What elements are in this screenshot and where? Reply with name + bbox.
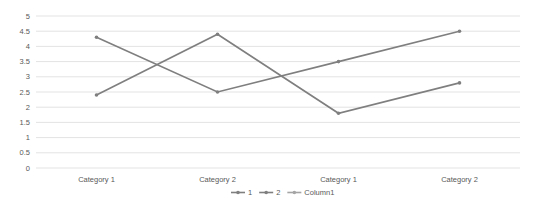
- x-axis: Category 1Category 2Category 1Category 2: [78, 175, 478, 184]
- data-point: [95, 93, 99, 97]
- y-tick-label: 0: [26, 164, 30, 173]
- y-tick-label: 4.5: [20, 27, 30, 36]
- line-chart: 00.511.522.533.544.55 Category 1Category…: [0, 0, 541, 209]
- x-tick-label: Category 2: [441, 175, 478, 184]
- y-tick-label: 3: [26, 72, 30, 81]
- x-tick-label: Category 1: [320, 175, 357, 184]
- legend: 12Column1: [231, 188, 334, 197]
- data-point: [458, 81, 462, 85]
- y-tick-label: 0.5: [20, 148, 30, 157]
- x-tick-label: Category 1: [78, 175, 115, 184]
- data-point: [337, 111, 341, 115]
- legend-label: 2: [276, 188, 280, 197]
- y-tick-label: 2.5: [20, 88, 30, 97]
- data-point: [458, 29, 462, 33]
- y-tick-label: 1: [26, 133, 30, 142]
- y-tick-label: 4: [26, 42, 30, 51]
- legend-label: Column1: [304, 188, 334, 197]
- y-tick-label: 3.5: [20, 57, 30, 66]
- y-tick-label: 2: [26, 103, 30, 112]
- data-point: [95, 35, 99, 39]
- x-tick-label: Category 2: [199, 175, 236, 184]
- y-tick-label: 1.5: [20, 118, 30, 127]
- data-point: [337, 60, 341, 64]
- series-lines: [95, 29, 462, 115]
- legend-item-1: 1: [231, 188, 252, 197]
- legend-item-2: 2: [259, 188, 280, 197]
- gridlines: [36, 16, 520, 168]
- data-point: [216, 90, 220, 94]
- y-axis: 00.511.522.533.544.55: [20, 12, 30, 173]
- y-tick-label: 5: [26, 12, 30, 21]
- legend-marker-icon: [236, 191, 240, 195]
- legend-marker-icon: [293, 191, 297, 195]
- data-point: [216, 32, 220, 36]
- legend-item-Column1: Column1: [287, 188, 334, 197]
- legend-label: 1: [248, 188, 252, 197]
- legend-marker-icon: [264, 191, 268, 195]
